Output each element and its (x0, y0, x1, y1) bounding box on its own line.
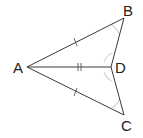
angle-mark-d-upper (104, 53, 112, 62)
label-a: A (13, 59, 23, 76)
angle-mark-c (112, 98, 120, 108)
geometry-diagram: A B D C (0, 0, 143, 138)
label-b: B (123, 2, 133, 19)
angle-mark-d-lower (104, 72, 112, 81)
label-c: C (121, 117, 132, 134)
label-d: D (115, 59, 126, 76)
angle-mark-b (112, 25, 120, 35)
